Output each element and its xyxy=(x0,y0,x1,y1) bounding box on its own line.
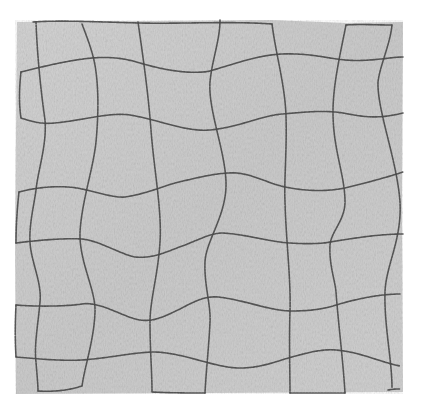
fabric-photo xyxy=(0,0,423,405)
left-edge-stitch-l3 xyxy=(15,305,16,357)
